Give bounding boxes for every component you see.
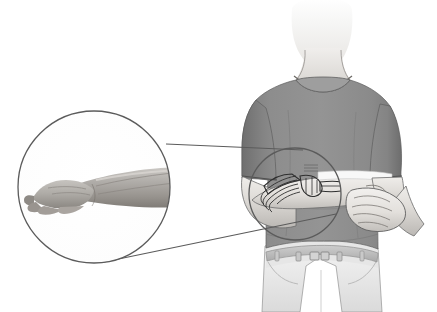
- head-neck-group: [292, 0, 354, 85]
- illustration-canvas: Forearm anatomy with magnified inset per…: [0, 0, 437, 312]
- belt-loop-right: [337, 252, 342, 261]
- belt-loop-far-left: [275, 251, 279, 261]
- belt-loop-left: [296, 252, 301, 261]
- belt-loop-far-right: [360, 251, 364, 261]
- anatomy-illustration: [0, 0, 437, 312]
- belt-buckle: [310, 252, 319, 260]
- belt-buckle-prong: [321, 252, 329, 260]
